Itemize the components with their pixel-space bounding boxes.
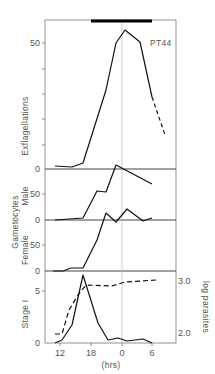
stage-tick-5: 5	[35, 286, 40, 296]
x-tick-18: 18	[86, 348, 96, 358]
x-axis-label: (hrs)	[102, 360, 121, 370]
x-tick-12: 12	[55, 348, 65, 358]
y-label-stage-1: Stage I	[20, 299, 30, 328]
left-ticks	[42, 43, 152, 346]
y-label-exflagellations: Exflagellations	[20, 96, 30, 155]
male-tick-50: 50	[30, 189, 40, 199]
y-label-log-parasites: log parasites	[201, 281, 211, 333]
y-label-male: Male	[20, 186, 30, 206]
female-gametocyte-line	[53, 209, 152, 271]
right-tick-2: 2.0	[178, 328, 191, 338]
female-tick-50: 50	[30, 240, 40, 250]
y-label-female: Female	[20, 235, 30, 265]
exfl-tick-0: 0	[35, 164, 40, 174]
x-tick-6: 6	[149, 348, 154, 358]
right-tick-3: 3.0	[178, 276, 191, 286]
chart-figure: 50 0 50 0 50 0 5 0 3.0 2.0 12 18 0 6 (hr…	[0, 0, 215, 374]
exflagellation-line	[55, 30, 152, 167]
male-tick-0: 0	[35, 215, 40, 225]
log-parasites-dashed-line	[55, 280, 156, 334]
y-label-gametocytes: Gametocytes	[10, 195, 20, 248]
exflagellation-dashed-line	[152, 97, 165, 135]
x-tick-0: 0	[119, 348, 124, 358]
exfl-tick-50: 50	[30, 38, 40, 48]
male-gametocyte-line	[55, 165, 152, 220]
patient-label: PT44	[150, 38, 172, 48]
stage-tick-0: 0	[35, 338, 40, 348]
female-tick-0: 0	[35, 266, 40, 276]
